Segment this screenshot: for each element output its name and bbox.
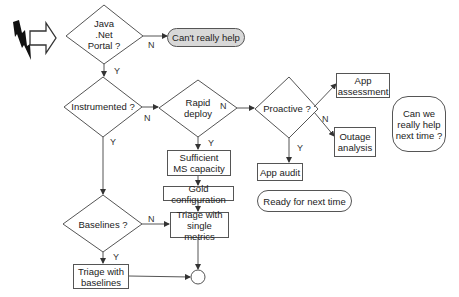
process-sufficient-ms-capacity: Sufficient MS capacity bbox=[167, 150, 231, 176]
edge-label-no: N bbox=[220, 101, 227, 111]
decision-rapid-deploy: Rapid deploy bbox=[178, 97, 218, 119]
decision-proactive: Proactive ? bbox=[257, 103, 317, 114]
process-triage-baselines: Triage with baselines bbox=[73, 264, 129, 289]
edge-label-no: N bbox=[322, 114, 329, 124]
terminal-cant-really-help: Can't really help bbox=[167, 28, 245, 47]
decision-instrumented: Instrumented ? bbox=[68, 101, 138, 112]
terminal-can-we-really-help: Can we really help next time ? bbox=[392, 96, 446, 152]
edge-label-no: N bbox=[148, 40, 155, 50]
edge-label-no: N bbox=[144, 113, 151, 123]
process-gold-configuration: Gold configuration bbox=[163, 186, 234, 201]
terminal-ready-for-next-time: Ready for next time bbox=[257, 190, 352, 212]
edge-label-yes: Y bbox=[208, 138, 214, 148]
edge-label-no: N bbox=[148, 214, 155, 224]
edge-label-yes: Y bbox=[113, 252, 119, 262]
edge-label-yes: Y bbox=[110, 137, 116, 147]
flowchart-canvas: Java .Net Portal ? Instrumented ? Rapid … bbox=[0, 0, 459, 297]
process-app-assessment: App assessment bbox=[336, 73, 390, 98]
end-connector-circle bbox=[191, 270, 205, 284]
decision-java-net-portal: Java .Net Portal ? bbox=[84, 18, 124, 51]
process-app-audit: App audit bbox=[257, 163, 303, 181]
hollow-arrow-icon bbox=[30, 23, 56, 53]
edge-label-yes: Y bbox=[114, 66, 120, 76]
lightning-bolt-icon bbox=[13, 20, 31, 60]
decision-baselines: Baselines ? bbox=[73, 219, 133, 230]
process-triage-single-metrics: Triage with single metrics bbox=[170, 212, 229, 238]
process-outage-analysis: Outage analysis bbox=[334, 127, 376, 157]
edge-label-yes: Y bbox=[297, 143, 303, 153]
